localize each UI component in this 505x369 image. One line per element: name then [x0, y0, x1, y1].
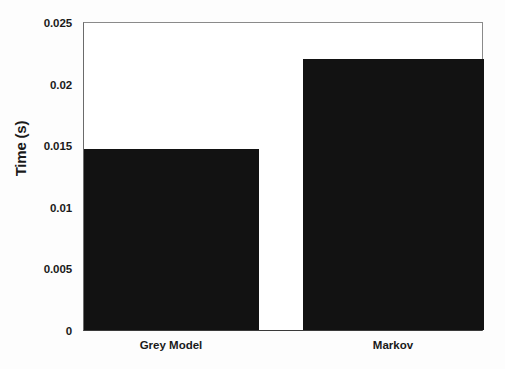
y-tick-label-0: 0 — [66, 325, 72, 337]
y-tick-label-0.025: 0.025 — [44, 17, 72, 29]
bar-markov[interactable] — [303, 59, 484, 330]
bar-chart-figure: Time (s) 0.025 0.02 0.015 0.01 0.005 0 G… — [0, 0, 505, 369]
y-axis-tick-labels: 0.025 0.02 0.015 0.01 0.005 0 — [0, 0, 78, 369]
bar-grey-model[interactable] — [84, 149, 259, 330]
x-tick-label-grey-model: Grey Model — [140, 339, 203, 351]
y-tick-label-0.005: 0.005 — [44, 263, 72, 275]
plot-area — [83, 22, 483, 331]
y-tick-label-0.01: 0.01 — [50, 202, 72, 214]
y-tick-label-0.015: 0.015 — [44, 140, 72, 152]
y-tick-label-0.02: 0.02 — [50, 79, 72, 91]
x-tick-label-markov: Markov — [373, 339, 413, 351]
